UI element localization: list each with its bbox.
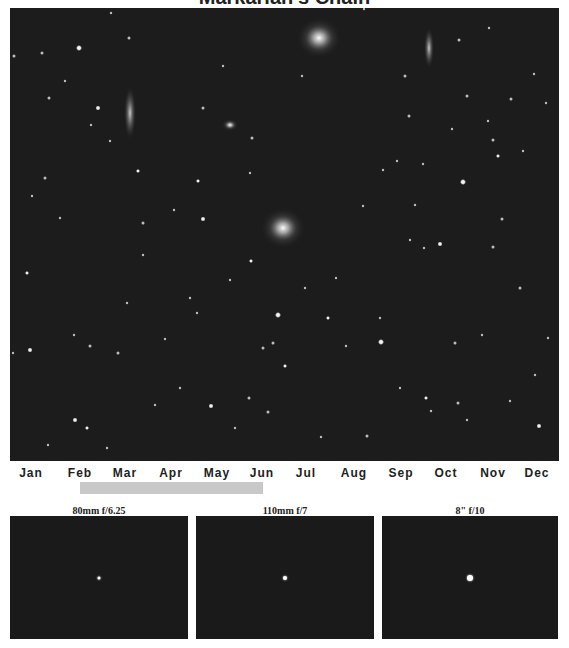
telescope-view xyxy=(382,516,558,639)
month-label-jan: Jan xyxy=(19,466,43,480)
star-point xyxy=(467,575,473,581)
edge-on-galaxy-left xyxy=(124,87,136,139)
telescope-panel-80mm: 80mm f/6.25 xyxy=(10,505,188,639)
star-field xyxy=(10,8,559,461)
telescope-panel-110mm: 110mm f/7 xyxy=(196,505,374,639)
elliptical-galaxy-top xyxy=(297,18,341,58)
star-point xyxy=(98,576,101,579)
telescope-panel-8inch: 8" f/10 xyxy=(382,505,558,639)
telescope-label: 8" f/10 xyxy=(382,505,558,516)
telescope-view xyxy=(196,516,374,639)
title-strip: Markarian's Chain xyxy=(0,0,569,8)
telescope-label: 80mm f/6.25 xyxy=(10,505,188,516)
month-label-jul: Jul xyxy=(296,466,316,480)
visibility-range-bar xyxy=(80,482,263,494)
month-label-mar: Mar xyxy=(113,466,137,480)
month-label-nov: Nov xyxy=(480,466,506,480)
elliptical-galaxy-center xyxy=(261,208,305,248)
star-point xyxy=(283,576,287,580)
month-label-sep: Sep xyxy=(388,466,413,480)
month-label-apr: Apr xyxy=(159,466,183,480)
telescope-label: 110mm f/7 xyxy=(196,505,374,516)
sky-image xyxy=(10,8,559,461)
month-label-dec: Dec xyxy=(524,466,549,480)
month-label-feb: Feb xyxy=(68,466,92,480)
month-label-oct: Oct xyxy=(434,466,457,480)
telescope-view xyxy=(10,516,188,639)
month-label-aug: Aug xyxy=(341,466,367,480)
page-title: Markarian's Chain xyxy=(0,0,569,8)
month-label-jun: Jun xyxy=(250,466,274,480)
small-galaxy xyxy=(222,119,238,131)
month-label-may: May xyxy=(204,466,230,480)
month-axis: Jan Feb Mar Apr May Jun Jul Aug Sep Oct … xyxy=(0,462,569,482)
edge-on-galaxy-right xyxy=(424,28,434,68)
